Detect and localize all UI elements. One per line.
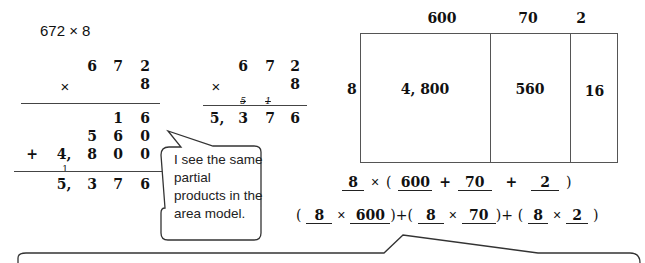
distributive-expression-1: 8 × ( 600 + 70 + 2 ) [342, 174, 571, 191]
open-paren: ( [296, 207, 301, 223]
blank-factor: 8 [342, 174, 364, 191]
blank-factor: 70 [462, 207, 496, 224]
open-paren: ( [407, 207, 412, 223]
bubble-line: partial [174, 169, 263, 187]
close-paren: ) [593, 207, 598, 223]
blank-factor: 600 [350, 207, 390, 224]
speech-bubble: I see the same partial products in the a… [174, 151, 263, 223]
times-sign: × [337, 207, 345, 223]
area-cell-value: 4, 800 [385, 81, 465, 97]
bubble-line: area model. [174, 205, 263, 223]
distributive-expression-2: ( 8 × 600)+( 8 × 70)+ ( 8 × 2 ) [296, 207, 598, 224]
blank-addend: 2 [531, 174, 559, 191]
top-label: 70 [508, 10, 548, 26]
top-label: 2 [570, 10, 592, 26]
blank-addend: 600 [398, 174, 432, 191]
area-divider [490, 33, 491, 163]
blank-factor: 8 [306, 207, 332, 224]
top-label: 600 [412, 10, 472, 26]
times-sign: × [553, 207, 561, 223]
area-cell-value: 560 [510, 81, 550, 97]
area-cell-value: 16 [571, 83, 618, 99]
side-label: 8 [347, 81, 357, 97]
bottom-callout-shape [18, 235, 640, 263]
plus-sign: + [501, 207, 513, 223]
plus-sign: + [506, 174, 518, 190]
blank-addend: 70 [458, 174, 492, 191]
blank-factor: 8 [528, 207, 548, 224]
blank-factor: 2 [566, 207, 588, 224]
bubble-line: I see the same [174, 151, 263, 169]
plus-sign: + [396, 207, 408, 223]
open-paren: ( [518, 207, 523, 223]
bubble-line: products in the [174, 187, 263, 205]
open-paren: ( [386, 174, 391, 190]
close-paren: ) [566, 174, 571, 190]
plus-sign: + [439, 174, 451, 190]
times-sign: × [449, 207, 457, 223]
blank-factor: 8 [418, 207, 444, 224]
times-sign: × [371, 174, 379, 190]
